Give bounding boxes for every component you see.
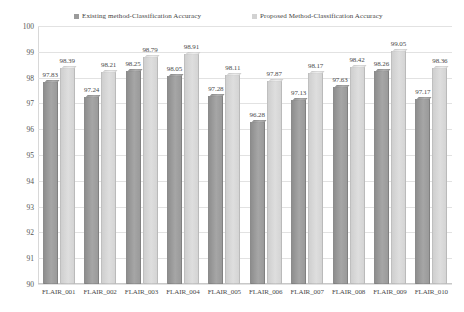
y-axis-tick-label: 95 xyxy=(4,151,34,160)
y-axis-tick-labels: 10099989796959493929190 xyxy=(0,26,34,284)
bar-existing-method[interactable]: 97.63 xyxy=(333,87,348,284)
bar-value-label: 98.79 xyxy=(142,46,157,54)
x-axis-tick-label: FLAIR_006 xyxy=(245,288,286,296)
x-axis-tick-labels: FLAIR_001FLAIR_002FLAIR_003FLAIR_004FLAI… xyxy=(38,288,452,296)
bar-existing-method[interactable]: 98.25 xyxy=(126,71,141,284)
y-axis-tick-label: 99 xyxy=(4,47,34,56)
proposed-series-swatch-icon xyxy=(252,14,257,19)
bar-existing-method[interactable]: 98.26 xyxy=(374,71,389,284)
y-axis-tick-label: 93 xyxy=(4,202,34,211)
bar-proposed-method[interactable]: 99.05 xyxy=(391,51,406,284)
gridline xyxy=(38,284,452,285)
bar-wrapper: 98.17 xyxy=(308,26,323,284)
bar-wrapper: 98.11 xyxy=(225,26,240,284)
y-axis-tick-label: 90 xyxy=(4,280,34,289)
x-axis-tick-label: FLAIR_009 xyxy=(369,288,410,296)
x-axis-tick-label: FLAIR_007 xyxy=(286,288,327,296)
bar-value-label: 97.63 xyxy=(332,76,347,84)
bar-group: 97.2498.21 xyxy=(79,26,120,284)
bar-group: 97.1798.36 xyxy=(411,26,452,284)
bar-value-label: 98.05 xyxy=(167,65,182,73)
x-axis-tick-label: FLAIR_008 xyxy=(328,288,369,296)
bar-group: 97.1398.17 xyxy=(286,26,327,284)
bar-proposed-method[interactable]: 98.17 xyxy=(308,73,323,284)
legend-item-existing-method: Existing method-Classification Accuracy xyxy=(74,12,201,20)
bar-proposed-method[interactable]: 97.87 xyxy=(267,81,282,284)
bar-value-label: 97.83 xyxy=(43,71,58,79)
x-axis-tick-label: FLAIR_005 xyxy=(204,288,245,296)
x-axis-tick-label: FLAIR_001 xyxy=(38,288,79,296)
x-axis-tick-label: FLAIR_003 xyxy=(121,288,162,296)
bar-group: 97.8398.39 xyxy=(38,26,79,284)
bar-value-label: 96.28 xyxy=(250,111,265,119)
y-axis-tick-label: 94 xyxy=(4,176,34,185)
bar-group: 97.2898.11 xyxy=(204,26,245,284)
bar-group: 96.2897.87 xyxy=(245,26,286,284)
bar-proposed-method[interactable]: 98.21 xyxy=(101,72,116,284)
bar-value-label: 97.28 xyxy=(208,85,223,93)
legend-label-proposed-method: Proposed Method-Classification Accuracy xyxy=(260,12,382,20)
bar-proposed-method[interactable]: 98.36 xyxy=(432,68,447,284)
bar-wrapper: 98.39 xyxy=(60,26,75,284)
y-axis-tick-label: 98 xyxy=(4,73,34,82)
bar-value-label: 98.91 xyxy=(184,43,199,51)
bar-existing-method[interactable]: 97.28 xyxy=(208,96,223,284)
bar-value-label: 98.25 xyxy=(125,60,140,68)
chart-legend: Existing method-Classification Accuracy … xyxy=(0,12,464,26)
bar-wrapper: 99.05 xyxy=(391,26,406,284)
bar-value-label: 97.87 xyxy=(267,70,282,78)
bar-group: 98.0598.91 xyxy=(162,26,203,284)
bar-groups: 97.8398.3997.2498.2198.2598.7998.0598.91… xyxy=(38,26,452,284)
bar-value-label: 98.11 xyxy=(225,64,240,72)
bar-wrapper: 97.87 xyxy=(267,26,282,284)
bar-proposed-method[interactable]: 98.91 xyxy=(184,54,199,284)
bar-value-label: 98.42 xyxy=(349,56,364,64)
bar-wrapper: 97.63 xyxy=(333,26,348,284)
bar-wrapper: 97.83 xyxy=(43,26,58,284)
bar-wrapper: 98.25 xyxy=(126,26,141,284)
bar-value-label: 98.36 xyxy=(432,57,447,65)
y-axis-tick-label: 96 xyxy=(4,125,34,134)
existing-series-swatch-icon xyxy=(74,14,79,19)
bar-wrapper: 97.24 xyxy=(84,26,99,284)
y-axis-tick-label: 92 xyxy=(4,228,34,237)
bar-wrapper: 96.28 xyxy=(250,26,265,284)
y-axis-tick-label: 100 xyxy=(4,22,34,31)
bar-value-label: 98.17 xyxy=(308,62,323,70)
bar-group: 98.2699.05 xyxy=(369,26,410,284)
bar-proposed-method[interactable]: 98.42 xyxy=(350,67,365,284)
bar-wrapper: 98.36 xyxy=(432,26,447,284)
bar-wrapper: 97.13 xyxy=(291,26,306,284)
y-axis-tick-label: 91 xyxy=(4,254,34,263)
bar-existing-method[interactable]: 97.83 xyxy=(43,82,58,284)
bar-existing-method[interactable]: 97.13 xyxy=(291,100,306,284)
bar-wrapper: 98.26 xyxy=(374,26,389,284)
bar-wrapper: 97.28 xyxy=(208,26,223,284)
x-axis-tick-label: FLAIR_004 xyxy=(162,288,203,296)
y-axis-tick-label: 97 xyxy=(4,99,34,108)
x-axis-tick-label: FLAIR_010 xyxy=(411,288,452,296)
bar-value-label: 98.39 xyxy=(60,57,75,65)
bar-wrapper: 97.17 xyxy=(415,26,430,284)
bar-value-label: 97.17 xyxy=(415,88,430,96)
bar-value-label: 98.21 xyxy=(101,61,116,69)
bar-existing-method[interactable]: 98.05 xyxy=(167,76,182,284)
legend-label-existing-method: Existing method-Classification Accuracy xyxy=(82,12,201,20)
bar-chart: Existing method-Classification Accuracy … xyxy=(0,0,464,312)
bar-wrapper: 98.21 xyxy=(101,26,116,284)
bar-wrapper: 98.42 xyxy=(350,26,365,284)
bar-proposed-method[interactable]: 98.79 xyxy=(143,57,158,284)
x-axis-tick-label: FLAIR_002 xyxy=(79,288,120,296)
bar-proposed-method[interactable]: 98.11 xyxy=(225,75,240,284)
bar-proposed-method[interactable]: 98.39 xyxy=(60,68,75,284)
bar-value-label: 97.13 xyxy=(291,89,306,97)
bar-existing-method[interactable]: 96.28 xyxy=(250,122,265,284)
bar-value-label: 99.05 xyxy=(391,40,406,48)
bar-value-label: 97.24 xyxy=(84,86,99,94)
bar-group: 97.6398.42 xyxy=(328,26,369,284)
bar-existing-method[interactable]: 97.17 xyxy=(415,99,430,284)
bar-wrapper: 98.91 xyxy=(184,26,199,284)
bar-existing-method[interactable]: 97.24 xyxy=(84,97,99,284)
bar-value-label: 98.26 xyxy=(374,60,389,68)
legend-item-proposed-method: Proposed Method-Classification Accuracy xyxy=(252,12,382,20)
